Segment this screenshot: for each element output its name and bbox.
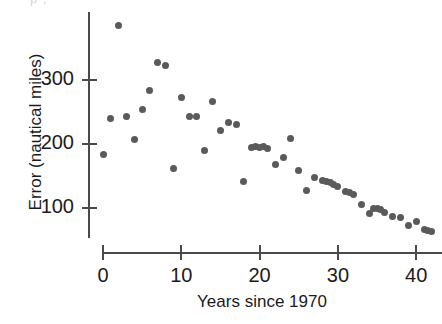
data-point (303, 187, 310, 194)
x-tick-label: 0 (80, 264, 126, 287)
data-point (381, 209, 388, 216)
data-point (123, 113, 130, 120)
data-point (287, 135, 294, 142)
data-point (217, 127, 224, 134)
data-point (162, 62, 169, 69)
data-point (107, 115, 114, 122)
data-point (170, 165, 177, 172)
y-axis-title: Error (nautical miles) (26, 24, 46, 240)
x-tick (259, 245, 261, 260)
data-point (131, 136, 138, 143)
x-tick-label: 20 (237, 264, 283, 287)
scatter-plot-figure: p , 100200300 010203040 Error (nautical … (0, 0, 442, 324)
data-point (209, 98, 216, 105)
data-point (389, 213, 396, 220)
data-point (100, 151, 107, 158)
x-tick-label: 30 (315, 264, 361, 287)
data-point (311, 174, 318, 181)
data-point (240, 178, 247, 185)
plot-area: 100200300 010203040 Error (nautical mile… (0, 0, 442, 324)
data-point (186, 113, 193, 120)
x-axis-title: Years since 1970 (150, 292, 374, 312)
data-point (201, 147, 208, 154)
data-point (225, 119, 232, 126)
data-point (413, 218, 420, 225)
x-tick (337, 245, 339, 260)
data-point (178, 94, 185, 101)
x-tick (102, 245, 104, 260)
data-point (139, 106, 146, 113)
x-tick-label: 40 (393, 264, 439, 287)
data-point (146, 87, 153, 94)
data-point (428, 228, 435, 235)
data-point (350, 191, 357, 198)
x-axis-line (103, 252, 442, 254)
y-axis-line (88, 12, 90, 238)
data-point (358, 201, 365, 208)
x-tick-label: 10 (158, 264, 204, 287)
data-point (193, 113, 200, 120)
y-tick (82, 79, 97, 81)
data-point (397, 214, 404, 221)
x-tick (180, 245, 182, 260)
data-point (334, 183, 341, 190)
y-tick (82, 207, 97, 209)
y-tick (82, 143, 97, 145)
data-point (405, 222, 412, 229)
x-tick (415, 245, 417, 260)
data-point (280, 154, 287, 161)
data-point (154, 59, 161, 66)
data-point (233, 121, 240, 128)
data-point (264, 145, 271, 152)
data-point (295, 167, 302, 174)
data-point (115, 22, 122, 29)
data-point (272, 161, 279, 168)
